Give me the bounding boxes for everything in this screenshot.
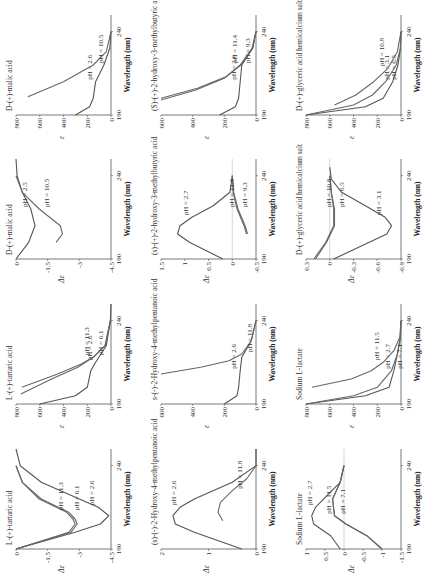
y-axis-label: ε — [347, 424, 356, 428]
chart-title: (s)-(+)-2-hydroxy-3-methylbutyric acid — [150, 137, 159, 256]
x-axis-label: Wavelength (nm) — [123, 37, 132, 93]
y-axis-label: ε — [347, 135, 356, 139]
x-tick-label: 190 — [260, 109, 268, 120]
x-tick-label: 190 — [260, 399, 268, 410]
y-tick-label: 200 — [221, 407, 229, 418]
y-tick-label: 400 — [350, 117, 358, 128]
chart-title: L-(+)-tartaric acid — [5, 346, 14, 401]
series-label: pH = 11.3 — [83, 327, 91, 355]
series-line — [161, 321, 256, 374]
chart-panel-malic_cd: 0-1.5-3-4.5Δε190240Wavelength (nm)D-(+)-… — [0, 150, 140, 290]
y-tick-label: 0 — [341, 552, 349, 556]
chart-title: (s)-(-)-2-Hydroxy-4-methylpentanoic acid — [150, 418, 159, 545]
series-label: pH = 10.5 — [97, 34, 105, 63]
y-axis-label: Δε — [347, 275, 356, 285]
x-axis-label: Wavelength (nm) — [413, 181, 422, 237]
chart-panel-lac_abs: 8006004002000ε190240Wavelength (nm)Sodiu… — [290, 294, 430, 434]
y-tick-label: 400 — [60, 407, 68, 418]
x-axis-label: Wavelength (nm) — [413, 37, 422, 93]
chart-panel-mp_abs: 6004002000ε190240Wavelength (nm)s-(-)-2-… — [145, 294, 285, 434]
series-label: pH = 6.1 — [73, 485, 81, 510]
x-tick-label: 190 — [260, 543, 268, 554]
y-tick-label: 400 — [60, 117, 68, 128]
y-tick-label: 800 — [303, 117, 311, 128]
series-label: pH = 7.1 — [396, 344, 404, 369]
figure-grid: 0-1.5-3-4.5Δε190240Wavelength (nm)L-(+)-… — [0, 0, 435, 579]
x-axis-label: Wavelength (nm) — [268, 181, 277, 237]
y-tick-label: 1 — [303, 552, 311, 556]
x-axis-label: Wavelength (nm) — [268, 326, 277, 382]
y-tick-label: 0 — [13, 552, 21, 556]
x-tick-label: 190 — [405, 399, 413, 410]
chart-title: Sodium L-lactate — [295, 348, 304, 401]
series-label: pH = 2.6 — [88, 480, 96, 505]
chart-title: (S)-(+)-2-hydroxy-3-methylbutyric acid — [150, 0, 159, 111]
x-tick-label: 240 — [405, 460, 413, 471]
y-tick-label: -1 — [379, 552, 387, 558]
y-axis-label: Δε — [57, 564, 66, 574]
chart-title: L-(+)-tartaric acid — [5, 490, 14, 545]
series-label: pH = 11.8 — [236, 460, 244, 488]
series-label: pH = 2.7 — [306, 480, 314, 505]
y-tick-label: 400 — [189, 117, 197, 128]
x-axis-label: Wavelength (nm) — [123, 471, 132, 527]
x-tick-label: 190 — [260, 254, 268, 265]
series-label: pH = 10.5 — [43, 179, 51, 208]
y-tick-label: 600 — [326, 117, 334, 128]
y-tick-label: 200 — [84, 407, 92, 418]
y-tick-label: 2 — [158, 552, 166, 556]
chart-title: s-(-)-2-Hydroxy-4-methylpentanoic acid — [150, 279, 159, 401]
y-tick-label: 400 — [189, 407, 197, 418]
series-label: pH = 11.5 — [325, 485, 333, 513]
chart-panel-lac_cd: 10.50-0.5-1-1.5Δε190240Wavelength (nm)So… — [290, 439, 430, 579]
chart-panel-gly_cd: 0.30-0.3-0.6-0.9Δε190240Wavelength (nm)D… — [290, 150, 430, 290]
chart-title: D-(+)-malic acid — [5, 60, 14, 111]
y-tick-label: -0.5 — [360, 552, 368, 564]
x-axis-label: Wavelength (nm) — [413, 326, 422, 382]
y-axis-label: ε — [57, 135, 66, 139]
x-tick-label: 240 — [260, 170, 268, 181]
x-tick-label: 240 — [260, 460, 268, 471]
chart-panel-mb_abs: 6004002000ε190240Wavelength (nm)(S)-(+)-… — [145, 5, 285, 145]
y-tick-label: -0.3 — [350, 262, 358, 274]
y-tick-label: 600 — [158, 407, 166, 418]
y-axis-label: Δε — [57, 275, 66, 285]
chart-panel-tart_abs: 8006004002000ε190240Wavelength (nm)L-(+)… — [0, 294, 140, 434]
x-axis-label: Wavelength (nm) — [413, 471, 422, 527]
series-label: pH = 10.8 — [378, 37, 386, 66]
x-tick-label: 190 — [115, 399, 123, 410]
y-axis-label: ε — [202, 135, 211, 139]
series-line — [16, 466, 75, 549]
y-axis-label: Δε — [347, 564, 356, 574]
y-tick-label: -1.5 — [44, 552, 52, 564]
x-tick-label: 190 — [405, 543, 413, 554]
x-axis-label: Wavelength (nm) — [123, 181, 132, 237]
x-axis-label: Wavelength (nm) — [268, 471, 277, 527]
y-tick-label: -1.5 — [44, 262, 52, 274]
chart-title: Sodium L-lactate — [295, 492, 304, 545]
y-tick-label: 800 — [13, 117, 21, 128]
y-tick-label: 0.5 — [205, 262, 213, 271]
chart-panel-mp_cd: 210Δε190240Wavelength (nm)(s)-(-)-2-Hydr… — [145, 439, 285, 579]
series-label: pH = 6.5 — [338, 182, 346, 207]
series-line — [178, 176, 233, 259]
series-label: pH = 11.4 — [228, 179, 236, 207]
y-tick-label: 0 — [229, 262, 237, 266]
y-axis-label: Δε — [202, 564, 211, 574]
series-line — [16, 160, 35, 260]
x-tick-label: 240 — [115, 460, 123, 471]
series-line — [16, 466, 77, 549]
y-tick-label: 1 — [205, 552, 213, 556]
chart-title: D-(+)-glyceric acid hemicalcium salt — [295, 144, 304, 256]
y-tick-label: -3 — [76, 262, 84, 268]
y-tick-label: 0 — [326, 262, 334, 266]
x-tick-label: 240 — [115, 315, 123, 326]
y-tick-label: 1 — [181, 262, 189, 266]
x-tick-label: 240 — [115, 170, 123, 181]
y-tick-label: 0 — [13, 262, 21, 266]
y-tick-label: 600 — [326, 407, 334, 418]
series-label: pH = 2.7 — [182, 191, 190, 216]
y-tick-label: 0.3 — [303, 262, 311, 271]
y-tick-label: 200 — [84, 117, 92, 128]
chart-panel-gly_abs: 8006004002000ε190240Wavelength (nm)D-(+)… — [290, 5, 430, 145]
